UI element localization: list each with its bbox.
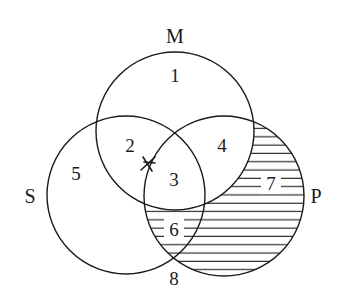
set-label-s: S xyxy=(24,185,35,207)
region-label-8: 8 xyxy=(169,268,179,289)
venn-diagram: M S P 1 2 3 4 5 6 7 8 xyxy=(0,0,340,300)
region-label-1: 1 xyxy=(170,65,180,86)
region-label-6: 6 xyxy=(169,219,179,240)
region-label-3: 3 xyxy=(169,169,179,190)
set-label-m: M xyxy=(166,25,184,47)
set-label-p: P xyxy=(310,185,321,207)
region-label-4: 4 xyxy=(217,135,227,156)
region-label-5: 5 xyxy=(71,163,81,184)
region-label-7: 7 xyxy=(266,173,276,194)
region-label-2: 2 xyxy=(125,135,135,156)
